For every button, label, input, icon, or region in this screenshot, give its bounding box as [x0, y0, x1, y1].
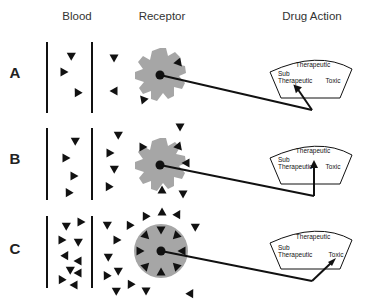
drug-receptor-diagram: Blood Receptor Drug Action A Therapeutic…: [0, 0, 366, 301]
drug-molecule-icon: [176, 124, 185, 132]
drug-molecule-icon: [70, 281, 78, 290]
row-a: A Therapeutic Sub Therapeutic Toxic: [10, 42, 352, 113]
svg-text:Sub: Sub: [278, 156, 290, 163]
drug-molecule-icon: [110, 55, 119, 63]
drug-molecule-icon: [123, 221, 135, 232]
svg-text:Therapeutic: Therapeutic: [296, 233, 331, 241]
drug-molecule-icon: [185, 287, 197, 298]
drug-molecule-icon: [63, 154, 71, 163]
drug-molecule-icon: [107, 149, 115, 158]
drug-molecule-icon: [67, 49, 78, 61]
drug-molecule-icon: [179, 191, 188, 199]
svg-text:Therapeutic: Therapeutic: [296, 61, 331, 69]
svg-text:Toxic: Toxic: [326, 163, 342, 170]
drug-molecule-icon: [74, 235, 85, 247]
drug-action-dial-a: Therapeutic Sub Therapeutic Toxic: [270, 60, 352, 98]
drug-molecule-icon: [59, 236, 67, 245]
row-b: B Therapeutic Sub Therapeutic Toxic: [10, 124, 352, 201]
drug-molecule-icon: [110, 87, 118, 96]
header-drug-action: Drug Action: [282, 10, 341, 22]
drug-molecule-icon: [100, 269, 112, 280]
svg-text:Toxic: Toxic: [329, 251, 345, 258]
drug-molecule-icon: [124, 280, 136, 291]
svg-text:Therapeutic: Therapeutic: [278, 163, 313, 171]
drug-molecule-icon: [78, 218, 86, 227]
drug-molecule-icon: [103, 218, 114, 230]
drug-molecule-icon: [139, 212, 151, 223]
drug-action-dial-b: Therapeutic Sub Therapeutic Toxic: [270, 146, 352, 184]
header-receptor: Receptor: [139, 10, 186, 22]
drug-molecule-icon: [71, 172, 79, 181]
drug-molecule-icon: [62, 186, 74, 197]
svg-text:Toxic: Toxic: [326, 77, 342, 84]
drug-molecule-icon: [137, 93, 149, 105]
drug-molecule-icon: [60, 249, 72, 260]
drug-molecule-icon: [71, 134, 82, 146]
drug-molecule-icon: [61, 68, 69, 77]
drug-molecule-icon: [158, 208, 167, 216]
svg-text:Sub: Sub: [278, 244, 290, 251]
drug-molecule-icon: [112, 284, 123, 296]
drug-molecule-icon: [114, 128, 125, 140]
row-label-c: C: [10, 240, 21, 257]
drug-molecule-icon: [74, 257, 82, 266]
drug-molecule-icon: [104, 250, 115, 262]
svg-text:Therapeutic: Therapeutic: [278, 77, 313, 85]
row-label-b: B: [10, 150, 21, 167]
svg-text:Sub: Sub: [278, 70, 290, 77]
drug-molecule-icon: [191, 220, 202, 232]
svg-text:Therapeutic: Therapeutic: [278, 251, 313, 259]
drug-molecule-icon: [102, 180, 114, 191]
header-blood: Blood: [62, 10, 91, 22]
drug-molecule-icon: [62, 219, 73, 231]
drug-molecule-icon: [114, 264, 125, 276]
drug-molecule-icon: [71, 86, 83, 97]
drug-molecule-icon: [110, 162, 121, 174]
drug-action-dial-c: Therapeutic Sub Therapeutic Toxic: [270, 231, 352, 269]
drug-molecule-icon: [74, 269, 82, 278]
drug-molecule-icon: [142, 288, 151, 296]
row-label-a: A: [10, 64, 21, 81]
drug-molecule-icon: [114, 236, 122, 245]
drug-molecule-icon: [55, 273, 67, 284]
drug-molecule-icon: [172, 208, 184, 219]
svg-text:Therapeutic: Therapeutic: [296, 147, 331, 155]
row-c: C: [10, 208, 352, 299]
